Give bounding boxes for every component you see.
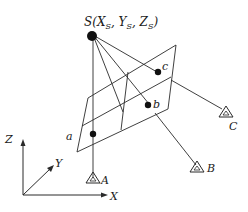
image-point-b-label: b xyxy=(153,98,160,111)
ray-c-C xyxy=(171,80,222,109)
ground-point-B-label: B xyxy=(206,162,215,175)
ground-points: A B C xyxy=(86,106,238,187)
x-axis-arrow-icon xyxy=(101,193,108,198)
image-point-a-label: a xyxy=(66,130,73,143)
x-axis-label: X xyxy=(109,190,119,203)
projection-center-label: S(XS, YS, ZS) xyxy=(84,15,158,31)
y-axis xyxy=(23,168,51,195)
image-point-a xyxy=(90,131,96,137)
ground-point-C-label: C xyxy=(229,120,238,133)
ray-S-b xyxy=(93,35,149,104)
image-point-b xyxy=(145,102,151,108)
projection-center-dot xyxy=(87,31,97,41)
z-axis-arrow-icon xyxy=(21,139,26,146)
ground-point-B-icon xyxy=(190,161,204,172)
ground-point-A-label: A xyxy=(100,174,109,187)
coordinate-axes xyxy=(21,139,109,198)
ray-b-B xyxy=(155,113,196,165)
image-point-c xyxy=(155,69,161,75)
y-axis-label: Y xyxy=(55,157,64,170)
ground-point-C-icon xyxy=(219,106,233,117)
z-axis-label: Z xyxy=(4,133,13,146)
ray-S-plane xyxy=(93,35,123,112)
ray-S-c xyxy=(93,35,157,72)
image-point-c-label: c xyxy=(162,60,168,73)
resection-diagram: S(XS, YS, ZS) a b c A B C xyxy=(0,0,248,212)
